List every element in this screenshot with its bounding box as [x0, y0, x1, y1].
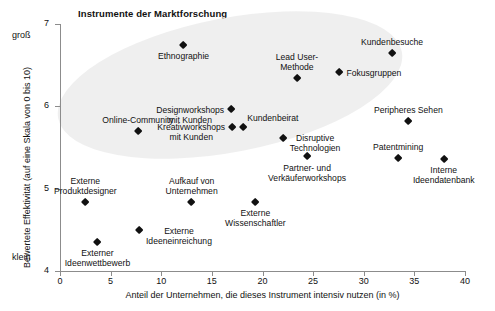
x-axis-tick-label: 20: [251, 276, 275, 286]
diamond-marker-icon: [404, 117, 413, 126]
data-point-label: Ethnographie: [158, 51, 209, 61]
diamond-marker-icon: [81, 197, 90, 206]
y-axis-tick: [55, 106, 60, 107]
x-axis-tick-label: 15: [200, 276, 224, 286]
x-axis-tick-label: 0: [48, 276, 72, 286]
y-axis-high-label: groß: [12, 30, 52, 40]
diamond-marker-icon: [187, 197, 196, 206]
y-axis-tick-label: 7: [27, 18, 49, 28]
diamond-marker-icon: [439, 155, 448, 164]
y-axis-title: Bewertete Effektivität (auf eine Skala v…: [22, 67, 32, 268]
x-axis-tick-label: 40: [453, 276, 477, 286]
data-point-label: Lead User- Methode: [276, 52, 319, 72]
y-axis-tick: [55, 24, 60, 25]
data-point-label: Patentmining: [373, 142, 423, 152]
diamond-marker-icon: [394, 154, 403, 163]
data-point-label: Externe Ideeneinreichung: [146, 226, 212, 246]
x-axis-tick-label: 35: [402, 276, 426, 286]
scatter-chart: Instrumente der Marktforschung 051015202…: [0, 0, 495, 311]
data-point-label: Peripheres Sehen: [374, 105, 443, 115]
y-axis-low-label: klein: [12, 252, 52, 262]
diamond-marker-icon: [251, 197, 260, 206]
diamond-marker-icon: [93, 238, 102, 247]
diamond-marker-icon: [134, 226, 143, 235]
x-axis-tick-label: 25: [301, 276, 325, 286]
x-axis-tick-label: 5: [99, 276, 123, 286]
data-point-label: Online-Community: [102, 115, 173, 125]
data-point-label: Externer Ideenwettbewerb: [65, 248, 130, 268]
data-point-label: Kundenbeirat: [247, 113, 298, 123]
data-point-label: Disruptive Technologien: [290, 133, 341, 153]
x-axis-tick-label: 10: [149, 276, 173, 286]
y-axis-tick: [55, 271, 60, 272]
chart-title: Instrumente der Marktforschung: [78, 8, 227, 19]
cluster-highlight-ellipse: [45, 0, 414, 184]
data-point-label: Partner- und Verkäuferworkshops: [268, 163, 346, 183]
data-point-label: Aufkauf von Unternehmen: [166, 176, 218, 196]
data-point-label: Externe Produktdesigner: [54, 176, 117, 196]
x-axis-title: Anteil der Unternehmen, die dieses Instr…: [60, 290, 465, 300]
data-point-label: Interne Ideendatenbank: [413, 165, 475, 185]
y-axis-line: [60, 24, 61, 272]
data-point-label: Externe Wissenschaftler: [225, 208, 286, 228]
data-point-label: Kundenbesuche: [361, 37, 423, 47]
x-axis-tick-label: 30: [352, 276, 376, 286]
data-point-label: Fokusgruppen: [346, 68, 401, 78]
